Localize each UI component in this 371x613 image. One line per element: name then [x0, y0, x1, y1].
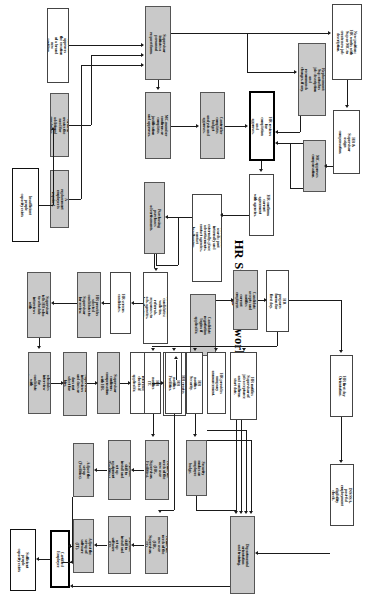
node-departmental-orientation: Departmental orientation and training.: [230, 516, 255, 594]
node-supervisor-tells-hr: Supervisor tells HR who to schedule inte…: [27, 272, 51, 338]
connector: [69, 125, 91, 126]
node-label: Adjust the set-up of software (IT).: [75, 537, 92, 556]
connector: [39, 205, 53, 206]
connector: [152, 346, 277, 347]
node-hr-confirms-agency-agreement: HR confirms current agreement with agenc…: [249, 174, 274, 236]
node-label: HR prepares forms for first day.: [269, 291, 286, 312]
node-label: The MC approves the creation of a brand …: [47, 36, 69, 56]
node-hr-screens-candidates: HR screens candidates.: [110, 272, 131, 334]
connector: [225, 126, 245, 127]
node-label: MC member confirms or completes justific…: [148, 113, 169, 137]
arrow-head: [193, 348, 197, 351]
connector: [289, 300, 341, 301]
node-label: HR & Supervisor assign compensation.: [338, 130, 355, 155]
connector: [120, 383, 128, 384]
arrow-head: [141, 53, 144, 57]
arrow-head: [234, 511, 238, 514]
node-label: HR notifies Facilities.: [167, 375, 180, 391]
arrow-head: [275, 141, 278, 145]
node-hr-reviews-completion: HR reviews for completion and approves.: [249, 91, 275, 161]
connector: [246, 430, 247, 512]
connector: [156, 265, 178, 266]
arrow-head: [231, 298, 234, 302]
connector: [290, 143, 291, 188]
node-label: HR notifies Security.: [188, 375, 201, 390]
connector: [222, 215, 249, 216]
arrow-head: [95, 381, 98, 385]
connector: [195, 414, 196, 434]
node-label: HR notifies Supervisor of job acceptance…: [233, 373, 254, 398]
connector: [91, 55, 143, 56]
connector: [326, 166, 333, 167]
node-label: Security makes an employee badge.: [188, 459, 205, 478]
connector: [277, 143, 290, 144]
arrow-head: [259, 169, 263, 172]
arrow-head: [141, 63, 144, 67]
arrow-head: [214, 348, 218, 351]
node-label: Purchasing purchases advertisements.: [148, 205, 161, 231]
node-hr-initiates-search: HR initiates search: post internally and…: [192, 194, 222, 282]
connector: [300, 116, 301, 132]
connector: [247, 33, 248, 72]
connector: [133, 303, 143, 304]
connector: [196, 510, 236, 511]
arrow-head: [131, 543, 134, 547]
node-hr-schedules-interview: HR schedules interview for candidate wit…: [28, 352, 51, 414]
connector: [96, 470, 107, 471]
arrow-head: [249, 511, 253, 514]
connector: [174, 414, 175, 510]
node-hr-first-day-orientation: HR first day Orientation.: [330, 355, 353, 417]
arrow-head: [242, 348, 246, 351]
arrow-head: [131, 468, 134, 472]
connector: [247, 72, 296, 73]
node-label: INS/SSA, post-ful employment eligibility…: [332, 484, 353, 506]
connector: [38, 559, 50, 560]
node-candidate-accepts: Candidate accepts and notifies current e…: [233, 270, 258, 330]
node-define-needs-facilities: Define the needs of the new user (HR, Su…: [145, 440, 169, 500]
connector: [160, 510, 174, 511]
connector: [178, 217, 179, 265]
arrow-head: [94, 543, 97, 547]
arrow-head: [294, 70, 297, 74]
node-mc-member-confirms: MC member confirms or completes justific…: [145, 92, 171, 159]
node-adjust-setup-software: Adjust the set-up of software (IT).: [73, 519, 94, 573]
connector: [81, 65, 143, 66]
connector: [103, 303, 110, 304]
node-schedule-install-software: Schedule skill to install and set up sof…: [108, 516, 131, 574]
arrow-head: [141, 43, 144, 47]
arrow-head: [131, 301, 134, 305]
connector: [96, 545, 107, 546]
node-label: Candidate negotiation begins if applicab…: [195, 313, 212, 337]
node-label: New position: HR works with Sup or MC to…: [337, 28, 358, 56]
arrow-head: [37, 346, 41, 349]
node-label: Supervisor interviews and does or does n…: [63, 373, 87, 395]
arrow-head: [70, 584, 73, 588]
arrow-head: [324, 164, 327, 168]
node-replacement-job-description: Replacement: Sup attaches job descriptio…: [298, 43, 326, 116]
connector: [290, 143, 303, 144]
node-label: Sufficient people capacity exists: [17, 548, 30, 572]
arrow-head: [51, 127, 55, 130]
arrow-head: [61, 381, 64, 385]
node-label: HR confirms current agreement with agenc…: [253, 194, 270, 217]
arrow-head: [196, 124, 199, 128]
connector: [51, 383, 61, 384]
node-label: Controller completes budget analysis and…: [202, 114, 223, 137]
connector: [72, 586, 230, 587]
connector: [133, 470, 144, 471]
node-label: Insufficient people capacity exists: [19, 192, 32, 217]
arrow-head: [255, 551, 258, 555]
arrow-head: [174, 356, 178, 359]
node-certified-employee: Certified Employee: [50, 530, 70, 588]
connector: [207, 430, 246, 431]
node-label: Adjust the set-up (Facilities).: [77, 460, 90, 479]
node-label: HR screens candidates.: [116, 294, 124, 313]
connector: [69, 199, 81, 200]
connector: [156, 254, 157, 265]
arrow-head: [339, 460, 343, 463]
arrow-head: [151, 434, 155, 437]
connector: [133, 545, 144, 546]
connector: [290, 188, 303, 189]
connector: [72, 497, 73, 562]
connector: [277, 132, 300, 133]
